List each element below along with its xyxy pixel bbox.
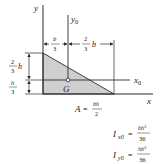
dim-two-thirds-h-den: 3 [11, 67, 14, 74]
svg-text:=: = [128, 151, 133, 160]
svg-text:bh: bh [93, 101, 99, 107]
svg-text:36: 36 [139, 156, 146, 163]
ix0-formula: I x0 = bh3 36 [112, 124, 150, 142]
centroid-marker [66, 78, 70, 82]
dim-two-thirds-var: b [92, 40, 96, 49]
svg-text:hb3: hb3 [138, 145, 147, 152]
x-axis-label: x [146, 96, 151, 106]
svg-text:=: = [128, 130, 133, 139]
svg-text:A: A [74, 104, 81, 114]
svg-text:2: 2 [95, 111, 98, 117]
dim-b-third-den: 3 [53, 45, 56, 52]
dim-two-thirds-h-var: h [18, 62, 22, 71]
triangle-area [43, 53, 114, 94]
x0-axis-label: x0 [133, 75, 141, 86]
dim-two-thirds-den: 3 [84, 45, 87, 52]
y-axis-label: y [33, 3, 38, 13]
y0-axis-label: y0 [70, 14, 78, 25]
centroid-label: G [63, 84, 70, 94]
dim-h-third-den: 3 [11, 88, 14, 95]
area-formula: A = bh 2 [74, 101, 102, 117]
svg-text:I: I [112, 150, 117, 160]
dim-two-thirds-h-num: 2 [11, 58, 14, 65]
svg-text:y0: y0 [117, 155, 124, 161]
svg-text:x0: x0 [117, 134, 124, 140]
triangle-centroid-diagram: y y0 x x0 G b 3 2 3 b 2 3 h h 3 A = bh 2 [0, 0, 164, 164]
svg-text:36: 36 [139, 135, 146, 142]
svg-text:I: I [112, 129, 117, 139]
dim-h-third-num: h [11, 79, 14, 86]
svg-text:bh3: bh3 [138, 124, 147, 131]
dim-two-thirds-num: 2 [84, 35, 87, 42]
svg-text:=: = [83, 105, 88, 114]
iy0-formula: I y0 = hb3 36 [112, 145, 150, 163]
